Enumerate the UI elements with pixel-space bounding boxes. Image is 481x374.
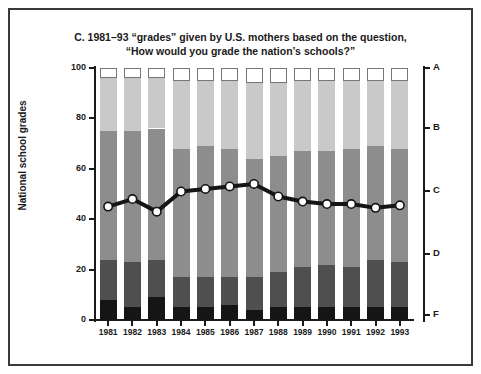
x-tick: [375, 321, 377, 326]
data-point-marker: [201, 185, 209, 193]
data-point-marker: [396, 201, 404, 209]
x-tick: [399, 321, 401, 326]
x-tick: [204, 321, 206, 326]
grade-label-f: F: [433, 308, 439, 319]
data-point-marker: [298, 197, 306, 205]
x-tick: [180, 321, 182, 326]
x-tick: [253, 321, 255, 326]
y-tick: [89, 67, 94, 69]
x-tick: [107, 321, 109, 326]
right-tick: [425, 253, 430, 255]
y-tick: [89, 168, 94, 170]
grade-label-b: B: [433, 121, 440, 132]
y-tick-label: 80: [56, 112, 86, 122]
data-point-marker: [323, 200, 331, 208]
data-point-marker: [177, 187, 185, 195]
y-tick-label: 40: [56, 213, 86, 223]
data-point-marker: [347, 200, 355, 208]
data-point-marker: [128, 195, 136, 203]
y-tick-label: 100: [56, 62, 86, 72]
right-tick: [425, 127, 430, 129]
y-tick: [89, 269, 94, 271]
y-tick: [89, 218, 94, 220]
right-axis-line: [423, 66, 425, 322]
x-tick: [302, 321, 304, 326]
right-tick: [425, 190, 430, 192]
data-point-marker: [225, 182, 233, 190]
grade-label-c: C: [433, 184, 440, 195]
y-axis-title: National school grades: [17, 71, 28, 241]
data-point-marker: [153, 207, 161, 215]
x-tick: [229, 321, 231, 326]
plot-area: [96, 68, 412, 320]
y-tick: [89, 117, 94, 119]
x-tick: [350, 321, 352, 326]
y-axis-labels: 020406080100: [52, 0, 86, 374]
right-tick: [425, 314, 430, 316]
y-tick-label: 0: [56, 314, 86, 324]
y-tick: [89, 319, 94, 321]
x-tick: [131, 321, 133, 326]
data-point-marker: [274, 192, 282, 200]
data-point-marker: [371, 204, 379, 212]
right-tick: [425, 67, 430, 69]
x-tick: [277, 321, 279, 326]
data-point-marker: [104, 202, 112, 210]
grade-label-d: D: [433, 247, 440, 258]
x-tick: [326, 321, 328, 326]
overlay-line-series: [96, 68, 412, 320]
chart-page: C. 1981–93 “grades” given by U.S. mother…: [0, 0, 481, 374]
data-point-marker: [250, 180, 258, 188]
grade-label-a: A: [433, 61, 440, 72]
x-tick: [156, 321, 158, 326]
y-tick-label: 60: [56, 163, 86, 173]
x-tick-label: 1993: [384, 327, 416, 337]
y-tick-label: 20: [56, 264, 86, 274]
